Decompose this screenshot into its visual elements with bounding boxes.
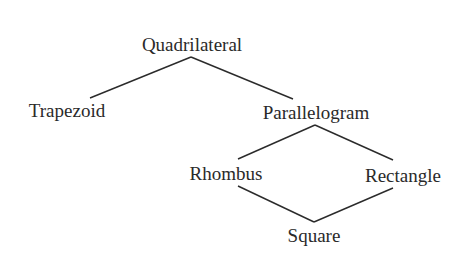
node-parallelogram: Parallelogram (263, 103, 370, 122)
node-trapezoid: Trapezoid (29, 101, 105, 120)
edge-parallelogram-rhombus (238, 125, 315, 159)
edge-parallelogram-rectangle (315, 125, 393, 160)
edge-quadrilateral-parallelogram (191, 57, 293, 99)
node-rectangle: Rectangle (365, 166, 441, 185)
quadrilateral-hierarchy-diagram: Quadrilateral Trapezoid Parallelogram Rh… (0, 0, 468, 268)
node-quadrilateral: Quadrilateral (142, 35, 242, 54)
edge-quadrilateral-trapezoid (90, 57, 191, 98)
node-square: Square (288, 226, 341, 245)
edge-rectangle-square (314, 188, 393, 222)
edge-rhombus-square (238, 186, 314, 222)
node-rhombus: Rhombus (190, 164, 263, 183)
